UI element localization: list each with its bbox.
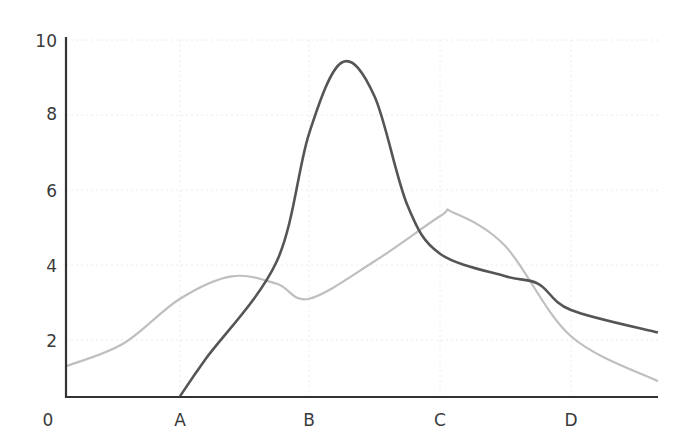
line-chart: 10 8 6 4 2 0 A B C D [0,0,694,448]
y-tick-2: 2 [46,331,57,351]
y-tick-8: 8 [46,104,57,124]
series-light-line [66,209,658,381]
gridlines [66,40,658,397]
y-tick-6: 6 [46,181,57,201]
y-tick-labels: 10 8 6 4 2 [35,31,57,351]
x-tick-labels: 0 A B C D [43,410,578,430]
y-tick-10: 10 [35,31,57,51]
series-dark-line [180,61,658,396]
x-tick-b: B [303,410,315,430]
x-tick-d: D [564,410,577,430]
y-tick-4: 4 [46,256,57,276]
x-tick-a: A [174,410,186,430]
origin-label: 0 [43,410,54,430]
x-tick-c: C [434,410,446,430]
